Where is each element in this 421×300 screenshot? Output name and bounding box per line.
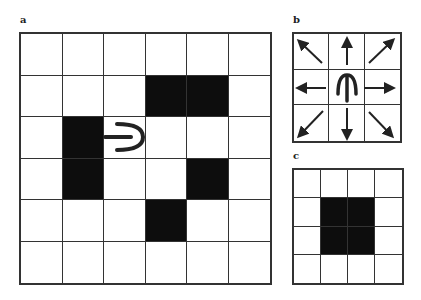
obstacle-cell <box>63 117 105 159</box>
grid-cell <box>294 170 321 198</box>
grid-cell <box>375 170 402 198</box>
panel-b-grid <box>292 32 402 143</box>
grid-cell <box>187 34 229 76</box>
grid-cell <box>329 105 364 141</box>
grid-cell <box>229 200 271 242</box>
grid-cell <box>321 170 348 198</box>
obstacle-cell <box>187 159 229 201</box>
grid-cell <box>375 198 402 226</box>
grid-cell <box>21 200 63 242</box>
grid-cell <box>294 255 321 283</box>
obstacle-cell <box>63 159 105 201</box>
grid-cell <box>229 242 271 284</box>
grid-cell <box>104 76 146 118</box>
obstacle-cell <box>321 227 348 255</box>
grid-cell <box>294 70 329 106</box>
grid-cell <box>63 242 105 284</box>
grid-cell <box>348 170 375 198</box>
grid-cell <box>375 255 402 283</box>
grid-cell <box>63 34 105 76</box>
obstacle-cell <box>187 76 229 118</box>
grid-cell <box>294 105 329 141</box>
grid-cell <box>63 76 105 118</box>
obstacle-cell <box>348 227 375 255</box>
grid-cell <box>21 34 63 76</box>
grid-cell <box>375 227 402 255</box>
panel-b-label: b <box>293 14 300 25</box>
obstacle-cell <box>321 198 348 226</box>
grid-cell <box>329 70 364 106</box>
grid-cell <box>146 117 188 159</box>
panel-a-grid <box>19 32 272 285</box>
grid-cell <box>21 117 63 159</box>
grid-cell <box>348 255 375 283</box>
grid-cell <box>63 200 105 242</box>
obstacle-cell <box>146 200 188 242</box>
grid-cell <box>104 159 146 201</box>
grid-cell <box>365 70 400 106</box>
obstacle-cell <box>348 198 375 226</box>
grid-cell <box>329 34 364 70</box>
obstacle-cell <box>146 76 188 118</box>
grid-cell <box>294 227 321 255</box>
grid-cell <box>187 117 229 159</box>
grid-cell <box>21 76 63 118</box>
grid-cell <box>104 117 146 159</box>
grid-cell <box>104 34 146 76</box>
grid-cell <box>229 34 271 76</box>
grid-cell <box>21 159 63 201</box>
grid-cell <box>104 200 146 242</box>
grid-cell <box>294 34 329 70</box>
grid-cell <box>321 255 348 283</box>
grid-cell <box>187 200 229 242</box>
grid-cell <box>229 117 271 159</box>
grid-cell <box>187 242 229 284</box>
grid-cell <box>146 159 188 201</box>
grid-cell <box>146 242 188 284</box>
panel-c-label: c <box>293 150 299 161</box>
grid-cell <box>21 242 63 284</box>
grid-cell <box>365 105 400 141</box>
panel-a-label: a <box>20 14 26 25</box>
grid-cell <box>365 34 400 70</box>
panel-c-grid <box>292 168 404 285</box>
grid-cell <box>104 242 146 284</box>
grid-cell <box>229 76 271 118</box>
grid-cell <box>229 159 271 201</box>
grid-cell <box>294 198 321 226</box>
grid-cell <box>146 34 188 76</box>
